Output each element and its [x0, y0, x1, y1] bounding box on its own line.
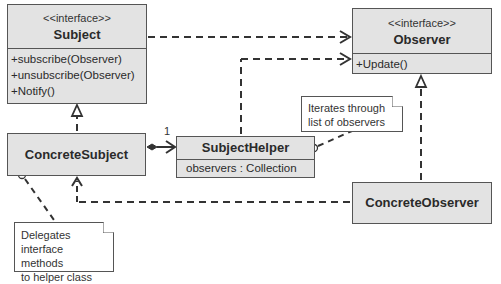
note-line: to helper class [21, 270, 107, 284]
note-anchor-iterates [311, 131, 353, 152]
method-notify: +Notify() [11, 83, 143, 99]
class-name: SubjectHelper [177, 140, 314, 156]
note-fold-icon [392, 96, 403, 107]
class-subject-helper-attributes: observers : Collection [177, 159, 314, 177]
realization-concretesubject-subject [72, 105, 82, 131]
class-name: Subject [8, 27, 146, 43]
realization-concreteobserver-observer [416, 76, 426, 180]
note-line: Delegates [21, 228, 107, 242]
class-concrete-subject-header: ConcreteSubject [8, 134, 145, 163]
class-concrete-observer-header: ConcreteObserver [353, 183, 491, 211]
note-delegates[interactable]: Delegates interface methods to helper cl… [14, 222, 114, 272]
note-line: interface methods [21, 242, 107, 270]
class-name: Observer [353, 32, 491, 48]
class-name: ConcreteObserver [353, 195, 491, 211]
class-subject-helper[interactable]: SubjectHelper observers : Collection [176, 136, 315, 178]
class-observer[interactable]: <<interface>> Observer +Update() [352, 8, 492, 74]
composition-concretesubject-helper [147, 141, 175, 153]
note-line: Iterates through [308, 101, 396, 115]
note-anchor-delegates [19, 172, 55, 221]
method-update: +Update() [356, 56, 488, 72]
class-name: ConcreteSubject [8, 147, 145, 163]
dependency-subject-observer [148, 31, 350, 43]
multiplicity-label: 1 [164, 125, 170, 137]
note-fold-icon [103, 222, 114, 233]
method-subscribe: +subscribe(Observer) [11, 51, 143, 67]
class-concrete-subject[interactable]: ConcreteSubject [7, 133, 146, 176]
note-iterates[interactable]: Iterates through list of observers [301, 96, 403, 132]
class-subject-helper-header: SubjectHelper [177, 137, 314, 159]
class-observer-header: <<interface>> Observer [353, 9, 491, 53]
method-unsubscribe: +unsubscribe(Observer) [11, 67, 143, 83]
class-concrete-observer[interactable]: ConcreteObserver [352, 182, 492, 224]
class-subject-header: <<interface>> Subject [8, 5, 146, 48]
note-line: list of observers [308, 115, 396, 129]
class-observer-methods: +Update() [353, 53, 491, 74]
dependency-concreteobserver-concretesubject [72, 178, 350, 202]
class-subject[interactable]: <<interface>> Subject +subscribe(Observe… [7, 4, 147, 104]
attribute-observers: observers : Collection [186, 161, 305, 176]
stereotype-label: <<interface>> [353, 16, 491, 30]
class-subject-methods: +subscribe(Observer) +unsubscribe(Observ… [8, 48, 146, 101]
stereotype-label: <<interface>> [8, 11, 146, 25]
